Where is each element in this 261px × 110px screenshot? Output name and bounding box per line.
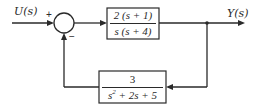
- summing-junction: [54, 13, 74, 33]
- forward-denominator: s (s + 4): [112, 26, 153, 37]
- output-label: Y(s): [227, 8, 249, 19]
- feedback-transfer-function: 3 s2 + 2s + 5: [99, 71, 166, 103]
- arrowhead-icon: [238, 20, 245, 26]
- arrowhead-icon: [61, 33, 67, 40]
- arrowhead-icon: [166, 84, 173, 90]
- denominator-remainder: + 2s + 5: [116, 89, 157, 101]
- feedback-denominator: s2 + 2s + 5: [106, 90, 159, 101]
- forward-numerator: 2 (s + 1): [112, 10, 154, 21]
- minus-sign: −: [69, 32, 75, 42]
- input-label: U(s): [14, 6, 38, 17]
- fraction-bar: [110, 23, 156, 24]
- arrowhead-icon: [100, 20, 107, 26]
- plus-sign: +: [46, 10, 52, 20]
- arrowhead-icon: [47, 20, 54, 26]
- feedback-numerator: 3: [128, 74, 138, 85]
- forward-transfer-function: 2 (s + 1) s (s + 4): [107, 8, 159, 39]
